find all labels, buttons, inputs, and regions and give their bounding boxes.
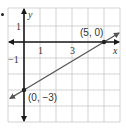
point-0-neg3 [22, 88, 26, 92]
x-axis-label: x [112, 45, 118, 56]
tick-x-1: 1 [38, 45, 43, 56]
tick-y-1: 1 [16, 21, 21, 32]
point-label-0-neg3: (0, −3) [28, 92, 57, 103]
coordinate-plane: y x 1 3 1 −1 (5, 0) (0, −3) [0, 0, 126, 128]
y-axis-label: y [27, 9, 33, 20]
tick-y-neg1: −1 [8, 54, 19, 65]
point-5-0 [102, 40, 106, 44]
graph-line [10, 90, 24, 98]
point-label-5-0: (5, 0) [80, 27, 103, 38]
tick-x-3: 3 [70, 45, 75, 56]
